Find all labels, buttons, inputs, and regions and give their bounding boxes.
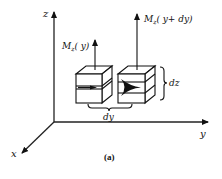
left-element-box <box>76 66 112 103</box>
stress-element-diagram: z y x Mz( y) Mz( y+ dy) <box>0 0 222 179</box>
dy-label: dy <box>103 112 115 122</box>
right-element-box <box>118 66 155 103</box>
z-axis-label: z <box>42 8 49 19</box>
x-axis <box>22 122 54 153</box>
moment-label-left: Mz( y) <box>61 41 90 52</box>
dz-label: dz <box>169 78 180 88</box>
y-axis-label: y <box>199 128 206 139</box>
moment-label-right: Mz( y+ dy) <box>143 14 193 25</box>
dy-brace <box>88 104 132 111</box>
moment-arrows: Mz( y) Mz( y+ dy) <box>61 14 193 70</box>
figure-caption: (a) <box>104 152 115 162</box>
dz-brace <box>160 67 167 100</box>
x-axis-label: x <box>11 148 17 159</box>
